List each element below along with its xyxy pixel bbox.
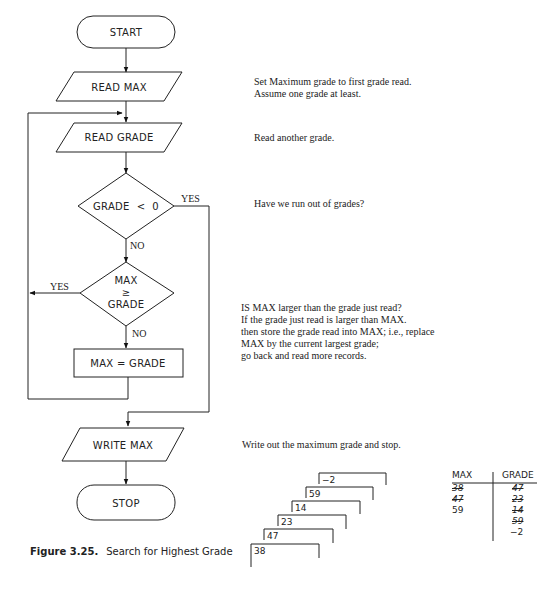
grade-value: −2: [502, 527, 534, 538]
grade-column: GRADE 47 23 14 59 −2: [502, 470, 534, 538]
stop-label: STOP: [112, 498, 140, 509]
read-grade-label: READ GRADE: [84, 132, 153, 143]
note-read-max: Set Maximum grade to first grade read. A…: [254, 76, 411, 100]
caption-label: Figure 3.25.: [30, 546, 98, 557]
max-value: 59: [452, 505, 472, 516]
note-line: then store the grade read into MAX; i.e.…: [241, 326, 435, 338]
note-write-max: Write out the maximum grade and stop.: [242, 439, 401, 451]
grade-value: 47: [502, 483, 534, 494]
grade-value: 23: [502, 494, 534, 505]
grade-value: 14: [502, 505, 534, 516]
read-max-label: READ MAX: [91, 82, 147, 93]
d1-no-label: NO: [130, 240, 144, 251]
assign-label: MAX = GRADE: [90, 358, 166, 369]
d1-yes-label: YES: [181, 193, 200, 204]
note-line: If the grade just read is larger than MA…: [241, 314, 435, 326]
card-value: 14: [295, 503, 307, 513]
d2-no-label: NO: [132, 328, 146, 339]
grade-header: GRADE: [502, 470, 534, 483]
note-decision1: Have we run out of grades?: [254, 198, 364, 210]
figure-caption: Figure 3.25.Search for Highest Grade: [30, 546, 233, 557]
note-line: Set Maximum grade to first grade read.: [254, 76, 411, 88]
card-value: 38: [254, 546, 266, 556]
max-value: 38: [452, 483, 472, 494]
d2-yes-label: YES: [50, 281, 69, 292]
card-value: 59: [309, 489, 321, 499]
start-label: START: [110, 27, 143, 38]
decision2-label-op: ≥: [122, 287, 131, 298]
write-max-label: WRITE MAX: [93, 440, 153, 451]
card-value: 23: [281, 517, 292, 527]
max-header: MAX: [452, 470, 472, 483]
card-value: 47: [267, 531, 278, 541]
note-line: Assume one grade at least.: [254, 88, 411, 100]
note-read-grade: Read another grade.: [254, 132, 334, 144]
decision1-label: GRADE < 0: [93, 201, 159, 212]
decision2-label-max: MAX: [114, 275, 137, 286]
note-line: go back and read more records.: [241, 350, 435, 362]
card-value: −2: [322, 475, 335, 485]
note-line: IS MAX larger than the grade just read?: [241, 302, 435, 314]
max-column: MAX 38 47 59: [452, 470, 472, 516]
note-decision2: IS MAX larger than the grade just read? …: [241, 302, 435, 362]
grade-value: 59: [502, 516, 534, 527]
note-line: MAX by the current largest grade;: [241, 338, 435, 350]
decision2-label-grade: GRADE: [108, 299, 145, 310]
max-value: 47: [452, 494, 472, 505]
caption-text: Search for Highest Grade: [106, 546, 232, 557]
